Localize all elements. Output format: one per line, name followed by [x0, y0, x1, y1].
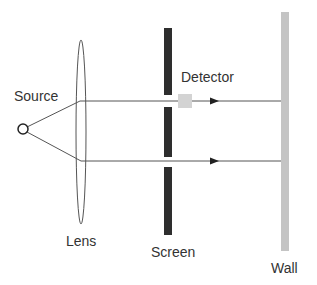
source-icon [18, 124, 28, 134]
screen-bottom-segment [164, 167, 172, 235]
screen-middle-segment [164, 107, 172, 157]
lens [76, 40, 86, 224]
arrow-upper-icon [210, 98, 219, 105]
source-label: Source [14, 89, 58, 103]
ray-upper-diverging [27, 101, 80, 127]
lens-label: Lens [66, 234, 96, 248]
ray-lower-diverging [27, 132, 81, 161]
double-slit-diagram [0, 0, 317, 285]
wall [281, 12, 289, 251]
screen-label: Screen [151, 245, 195, 259]
wall-label: Wall [271, 261, 298, 275]
screen-top-segment [164, 28, 172, 95]
arrow-lower-icon [210, 158, 219, 165]
detector-label: Detector [181, 70, 234, 84]
detector [178, 94, 192, 108]
